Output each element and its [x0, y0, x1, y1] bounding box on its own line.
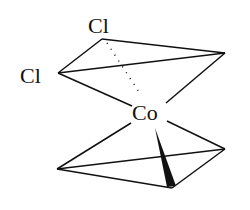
atom-label-co: Co: [132, 100, 158, 125]
upper-ligand-face: [58, 39, 225, 106]
atom-label-cl-left: Cl: [20, 63, 41, 88]
bond-lower-left-bottom: [57, 169, 172, 188]
bond-lower-left-right: [57, 149, 225, 169]
bond-cl-top-right: [102, 39, 225, 53]
bond-right-co: [166, 53, 225, 103]
cobalt-complex-diagram: Cl Cl Co: [0, 0, 250, 210]
dotted-bond-cl-top-co: [107, 43, 141, 95]
lower-ligand-face: [57, 121, 225, 188]
bond-co-lower-right: [167, 121, 225, 149]
bond-cl-left-right: [58, 53, 225, 73]
bond-cl-left-co: [58, 73, 132, 106]
atom-label-cl-top: Cl: [88, 13, 109, 38]
